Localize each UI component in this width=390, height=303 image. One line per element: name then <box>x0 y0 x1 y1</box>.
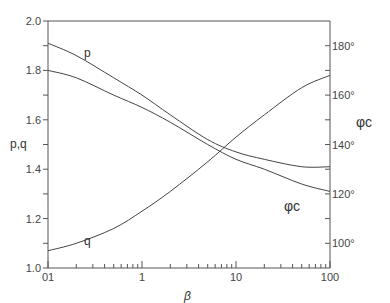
y-tick-label: 1.0 <box>26 262 41 274</box>
y2-tick-label: 120° <box>332 188 355 200</box>
x-axis-ticks: 01110100 <box>42 261 339 283</box>
q-curve-label: q <box>84 234 91 248</box>
curve-phi <box>48 70 330 191</box>
curve-q <box>48 75 330 250</box>
y2-tick-label: 140° <box>332 139 355 151</box>
p-curve-label: p <box>84 46 91 60</box>
y-tick-label: 1.2 <box>26 213 41 225</box>
y2-tick-label: 160° <box>332 89 355 101</box>
chart: 1.01.21.41.61.82.0 100°120°140°160°180° … <box>0 0 390 303</box>
x-tick-label: 1 <box>139 271 145 283</box>
x-tick-label: 10 <box>230 271 242 283</box>
curves <box>48 43 330 250</box>
x-tick-label: 01 <box>42 271 54 283</box>
y-tick-label: 1.8 <box>26 64 41 76</box>
y-tick-label: 1.6 <box>26 114 41 126</box>
y2-tick-label: 180° <box>332 40 355 52</box>
right-axis-ticks: 100°120°140°160°180° <box>325 40 355 250</box>
y-tick-label: 2.0 <box>26 15 41 27</box>
curve-p <box>48 43 330 167</box>
x-tick-label: 100 <box>321 271 339 283</box>
y2-axis-label: φc <box>356 114 372 130</box>
phi-curve-label: φc <box>284 198 300 214</box>
y-tick-label: 1.4 <box>26 163 41 175</box>
y2-tick-label: 100° <box>332 237 355 249</box>
x-axis-label: β <box>183 289 191 303</box>
y-axis-label: p,q <box>10 137 27 151</box>
left-axis-ticks: 1.01.21.41.61.82.0 <box>26 15 48 274</box>
